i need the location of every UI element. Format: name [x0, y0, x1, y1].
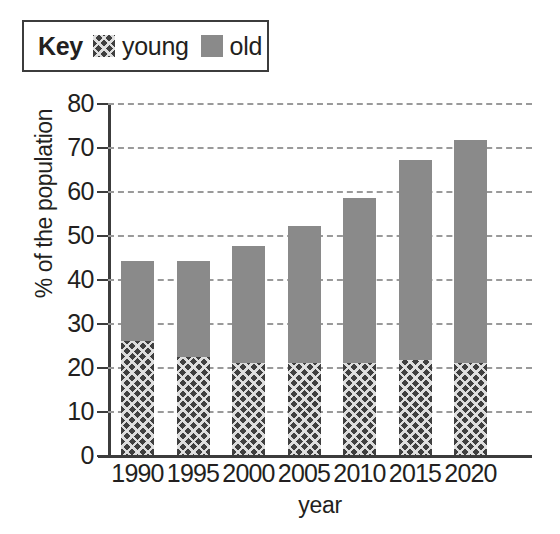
y-axis-tick — [97, 279, 108, 281]
bar-1990[interactable] — [121, 261, 154, 455]
y-axis-tick — [97, 455, 108, 457]
bar-segment-old — [454, 140, 487, 362]
x-axis-line — [98, 455, 532, 458]
bar-2005[interactable] — [288, 226, 321, 455]
y-axis-label: 80 — [34, 89, 94, 118]
y-axis-tick — [97, 367, 108, 369]
y-axis-label: 30 — [34, 309, 94, 338]
y-axis-tick — [97, 147, 108, 149]
x-axis-label-2020: 2020 — [433, 459, 509, 488]
stacked-bar-chart: % of the population 01020304050607080 19… — [0, 0, 560, 534]
y-axis-label: 50 — [34, 221, 94, 250]
y-axis-label: 70 — [34, 133, 94, 162]
bar-segment-old — [232, 246, 265, 363]
bar-segment-young — [177, 357, 210, 455]
plot-area: 01020304050607080 1990199520002005201020… — [108, 103, 532, 455]
gridline — [108, 103, 532, 105]
x-axis-title: year — [108, 492, 532, 519]
bar-segment-old — [288, 226, 321, 362]
y-axis-tick — [97, 235, 108, 237]
y-axis-tick — [97, 103, 108, 105]
bar-2010[interactable] — [343, 198, 376, 455]
bar-segment-old — [399, 160, 432, 360]
y-axis-label: 0 — [34, 441, 94, 470]
bar-segment-old — [343, 198, 376, 363]
y-axis-label: 20 — [34, 353, 94, 382]
bar-segment-old — [121, 261, 154, 340]
bar-segment-young — [232, 363, 265, 455]
bar-segment-young — [121, 341, 154, 455]
bar-segment-young — [399, 360, 432, 455]
bar-segment-old — [177, 261, 210, 357]
bar-segment-young — [343, 363, 376, 455]
y-axis-label: 60 — [34, 177, 94, 206]
bar-segment-young — [454, 363, 487, 455]
bar-1995[interactable] — [177, 261, 210, 455]
y-axis-label: 10 — [34, 397, 94, 426]
y-axis-tick — [97, 323, 108, 325]
bar-2015[interactable] — [399, 160, 432, 455]
y-axis-label: 40 — [34, 265, 94, 294]
bar-2020[interactable] — [454, 140, 487, 455]
bar-segment-young — [288, 363, 321, 455]
bar-2000[interactable] — [232, 246, 265, 455]
y-axis-tick — [97, 411, 108, 413]
y-axis-tick — [97, 191, 108, 193]
